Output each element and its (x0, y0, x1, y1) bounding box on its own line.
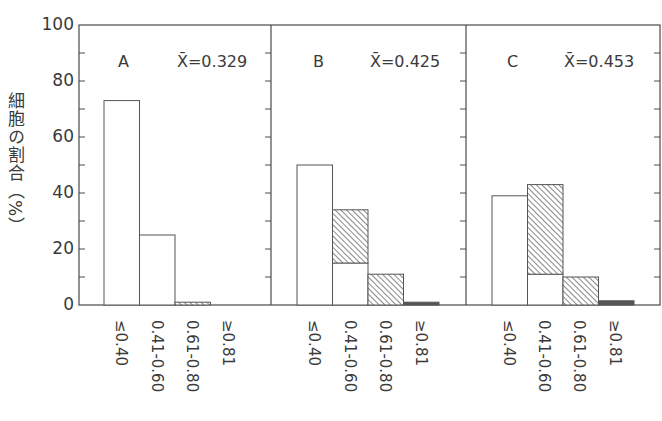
x-tick-label: ≥0.81 (412, 320, 430, 366)
x-tick-label: 0.41-0.60 (148, 320, 166, 392)
bar-a-2-hatched (175, 302, 211, 305)
bar-b-3-dark (404, 302, 440, 305)
panel-c-label: C (507, 52, 518, 71)
panel-b-label: B (313, 52, 324, 71)
bar-a-0-white (104, 101, 140, 305)
x-tick-label: 0.61-0.80 (570, 320, 588, 392)
x-tick-label: 0.41-0.60 (341, 320, 359, 392)
bar-b-1-hatched (333, 210, 369, 263)
bar-c-0-white (492, 196, 528, 305)
bars (104, 101, 634, 305)
panel-a-mean: X̄=0.329 (177, 52, 247, 71)
panel-a-label: A (118, 52, 129, 71)
y-tick-label: 40 (34, 182, 74, 202)
y-tick-label: 60 (34, 126, 74, 146)
x-tick-label: ≤0.40 (500, 320, 518, 366)
bar-c-3-dark (599, 301, 635, 305)
bar-b-0-white (297, 165, 333, 305)
histogram-figure: 細胞の割合（%） 0 20 40 60 80 100 A X̄=0.329 B … (0, 0, 662, 421)
y-tick-label: 20 (34, 238, 74, 258)
y-tick-label: 0 (34, 294, 74, 314)
x-tick-label: ≤0.40 (112, 320, 130, 366)
bar-b-1-white (333, 263, 369, 305)
x-tick-label: 0.61-0.80 (183, 320, 201, 392)
x-tick-label: ≥0.81 (219, 320, 237, 366)
x-tick-label: 0.61-0.80 (376, 320, 394, 392)
panel-c-mean: X̄=0.453 (564, 52, 634, 71)
y-tick-label: 100 (34, 14, 74, 34)
bar-a-1-white (140, 235, 176, 305)
panel-b-mean: X̄=0.425 (370, 52, 440, 71)
y-tick-label: 80 (34, 70, 74, 90)
x-tick-label: 0.41-0.60 (535, 320, 553, 392)
y-axis-label: 細胞の割合（%） (6, 92, 28, 235)
bar-c-1-hatched (528, 185, 564, 275)
x-tick-label: ≤0.40 (305, 320, 323, 366)
plot-area (0, 0, 662, 421)
bar-c-2-hatched (563, 277, 599, 305)
bar-b-2-hatched (368, 274, 404, 305)
x-tick-label: ≥0.81 (606, 320, 624, 366)
bar-c-1-white (528, 274, 564, 305)
